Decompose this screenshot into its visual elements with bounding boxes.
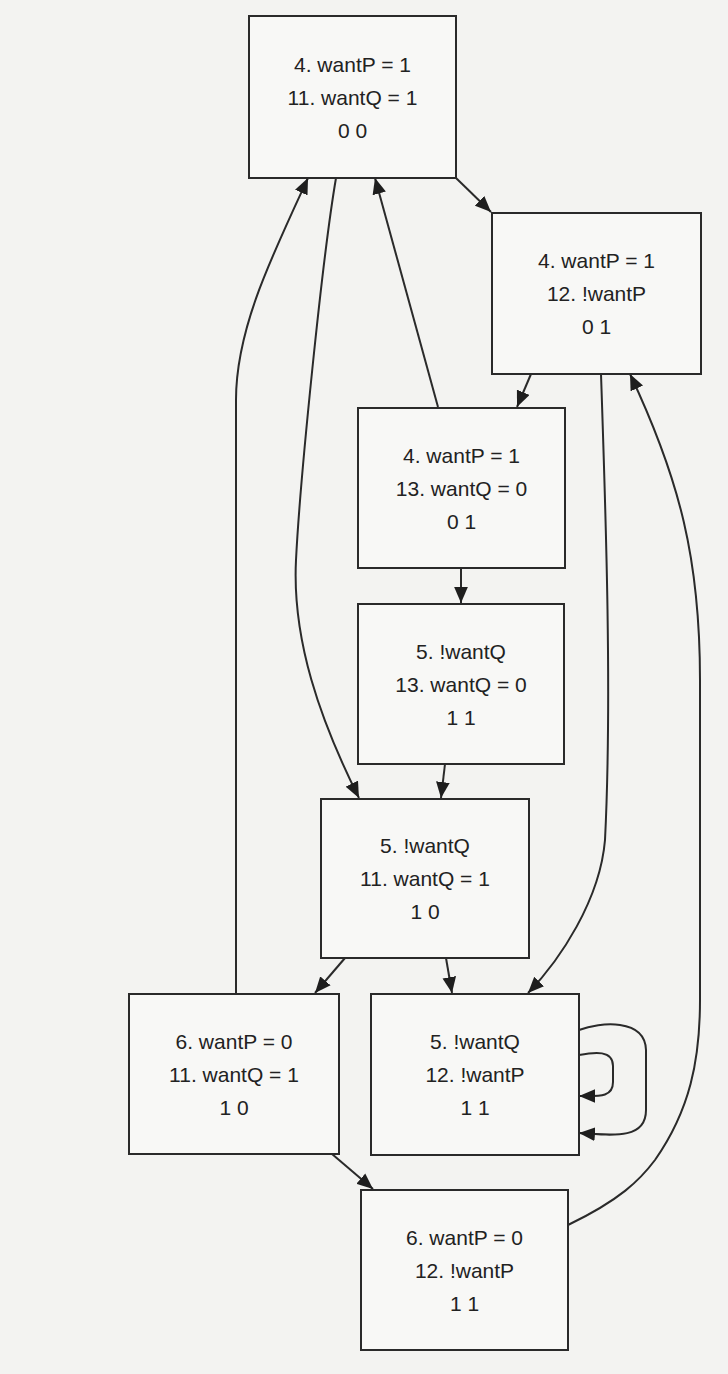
node-state-bits: 0 1 [582, 310, 611, 343]
node-line-1: 4. wantP = 1 [538, 244, 655, 277]
state-node-0: 4. wantP = 1 11. wantQ = 1 0 0 [248, 15, 457, 179]
node-line-1: 4. wantP = 1 [294, 48, 411, 81]
node-line-1: 6. wantP = 0 [406, 1221, 523, 1254]
state-node-4: 5. !wantQ 11. wantQ = 1 1 0 [320, 798, 530, 959]
edge-n6-n1 [236, 178, 308, 993]
node-line-2: 13. wantQ = 0 [396, 472, 527, 505]
state-node-5: 6. wantP = 0 11. wantQ = 1 1 0 [128, 993, 340, 1155]
node-line-2: 12. !wantP [425, 1058, 524, 1091]
state-node-6: 5. !wantQ 12. !wantP 1 1 [370, 993, 580, 1156]
edge-n5-n7 [446, 958, 452, 993]
node-line-1: 5. !wantQ [416, 635, 506, 668]
node-line-1: 5. !wantQ [380, 829, 470, 862]
edge-n5-n6 [315, 958, 345, 993]
edge-n3-n1 [375, 178, 438, 407]
edge-n6-n8 [332, 1154, 373, 1189]
node-line-2: 11. wantQ = 1 [360, 862, 490, 895]
node-line-1: 5. !wantQ [430, 1025, 520, 1058]
node-state-bits: 1 0 [410, 895, 439, 928]
node-state-bits: 1 1 [446, 701, 475, 734]
node-line-2: 11. wantQ = 1 [288, 81, 418, 114]
edge-n8-n2 [568, 374, 700, 1225]
node-state-bits: 1 1 [450, 1287, 479, 1320]
edge-n1-n5 [296, 178, 359, 798]
edge-n2-n3 [517, 374, 531, 407]
node-line-2: 13. wantQ = 0 [395, 668, 526, 701]
node-state-bits: 0 0 [338, 114, 367, 147]
node-line-2: 11. wantQ = 1 [169, 1058, 299, 1091]
edge-n1-n2 [456, 178, 491, 212]
state-node-3: 5. !wantQ 13. wantQ = 0 1 1 [357, 603, 565, 765]
node-state-bits: 0 1 [447, 505, 476, 538]
state-node-7: 6. wantP = 0 12. !wantP 1 1 [360, 1189, 569, 1351]
state-node-1: 4. wantP = 1 12. !wantP 0 1 [491, 212, 702, 375]
node-state-bits: 1 0 [219, 1091, 248, 1124]
node-line-2: 12. !wantP [547, 277, 646, 310]
node-line-2: 12. !wantP [415, 1254, 514, 1287]
node-line-1: 4. wantP = 1 [403, 439, 520, 472]
state-node-2: 4. wantP = 1 13. wantQ = 0 0 1 [357, 407, 566, 569]
edge-n7-self-inner [579, 1053, 613, 1096]
edge-n4-n5 [441, 764, 445, 798]
node-line-1: 6. wantP = 0 [176, 1025, 293, 1058]
node-state-bits: 1 1 [460, 1091, 489, 1124]
